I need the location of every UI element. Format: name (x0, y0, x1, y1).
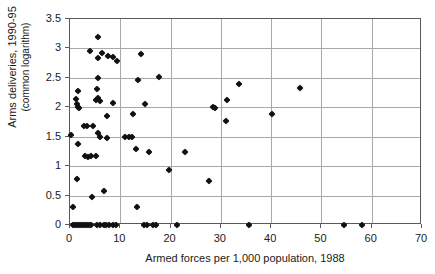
x-tick-label: 50 (300, 232, 340, 244)
data-point (133, 146, 140, 153)
x-tick-mark (220, 224, 221, 228)
data-point (297, 85, 304, 92)
data-point (212, 105, 219, 112)
data-point (69, 204, 76, 211)
data-point (146, 148, 153, 155)
data-point (340, 221, 347, 228)
data-point (269, 110, 276, 117)
data-point (74, 140, 81, 147)
data-point (95, 33, 102, 40)
y-axis-title-sub: (common logarithm) (19, 0, 32, 167)
data-point (73, 176, 80, 183)
y-tick-label: 0.5 (21, 189, 61, 201)
x-tick-mark (371, 224, 372, 228)
data-point (235, 80, 242, 87)
data-point (90, 122, 97, 129)
gridline-vertical (372, 19, 373, 223)
data-point (88, 193, 95, 200)
x-axis-title: Armed forces per 1,000 population, 1988 (69, 252, 421, 264)
data-point (104, 113, 111, 120)
y-tick-label: 0 (21, 218, 61, 230)
x-tick-label: 70 (401, 232, 435, 244)
data-point (94, 85, 101, 92)
data-point (130, 111, 137, 118)
data-point (100, 188, 107, 195)
gridline-vertical (321, 19, 322, 223)
y-axis-title: Arms deliveries, 1990-95 (common logarit… (5, 0, 35, 167)
data-point (95, 74, 102, 81)
gridline-vertical (171, 19, 172, 223)
data-point (205, 177, 212, 184)
gridline-horizontal (70, 107, 420, 108)
y-axis-title-main: Arms deliveries, 1990-95 (5, 0, 19, 167)
gridline-horizontal (70, 78, 420, 79)
gridline-horizontal (70, 48, 420, 49)
gridline-vertical (120, 19, 121, 223)
gridline-horizontal (70, 196, 420, 197)
data-point (109, 100, 116, 107)
data-point (104, 134, 111, 141)
x-tick-mark (270, 224, 271, 228)
gridline-vertical (271, 19, 272, 223)
data-point (222, 117, 229, 124)
x-tick-label: 10 (99, 232, 139, 244)
x-tick-label: 60 (351, 232, 391, 244)
x-tick-mark (170, 224, 171, 228)
data-point (96, 98, 103, 105)
scatter-chart-figure: 00.511.522.533.5 010203040506070 Armed f… (0, 0, 435, 274)
data-point (137, 51, 144, 58)
x-tick-label: 20 (150, 232, 190, 244)
data-point (74, 87, 81, 94)
x-tick-label: 0 (49, 232, 89, 244)
data-point (134, 204, 141, 211)
x-tick-mark (421, 224, 422, 228)
data-point (92, 152, 99, 159)
data-point (245, 221, 252, 228)
plot-area (69, 18, 421, 224)
data-point (129, 134, 136, 141)
data-point (224, 97, 231, 104)
data-point (155, 73, 162, 80)
gridline-horizontal (70, 166, 420, 167)
data-point (359, 221, 366, 228)
data-point (174, 221, 181, 228)
data-point (181, 148, 188, 155)
x-tick-label: 30 (200, 232, 240, 244)
x-tick-mark (320, 224, 321, 228)
x-tick-label: 40 (250, 232, 290, 244)
